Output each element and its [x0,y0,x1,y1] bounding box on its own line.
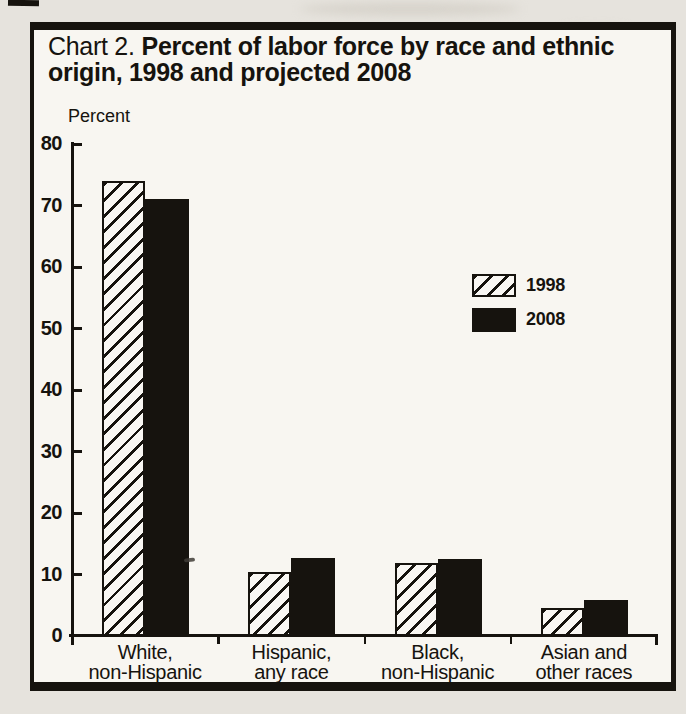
y-axis-line [71,142,74,645]
category-label: Black,non-Hispanic [353,642,523,682]
category-label: Asian andother races [499,642,669,682]
legend: 1998 2008 [472,272,565,333]
legend-label-1998: 1998 [526,275,565,296]
bar-1998-3 [541,608,584,636]
y-tick [72,389,82,392]
y-tick-label: 0 [20,624,62,647]
plot-area: White,non-HispanicHispanic,any raceBlack… [0,0,686,714]
y-tick-label: 30 [20,440,62,463]
legend-item-1998: 1998 [472,272,565,299]
category-boundary-tick [510,634,513,644]
y-tick-label: 80 [20,132,62,155]
category-label-line: Black, [353,642,523,662]
x-axis-end-tick [655,634,658,645]
category-label-line: Asian and [499,642,669,662]
bar-2008-2 [438,559,482,636]
y-tick-label: 40 [20,378,62,401]
y-tick [72,450,82,453]
category-label-line: any race [206,662,376,682]
category-label-line: Hispanic, [206,642,376,662]
y-tick [72,573,82,576]
bar-1998-1 [248,572,291,636]
bar-1998-0 [102,181,145,636]
category-label-line: other races [499,662,669,682]
scanned-page: Chart 2.Percent of labor force by race a… [0,0,686,714]
category-label-line: non-Hispanic [60,662,230,682]
category-label-line: White, [60,642,230,662]
legend-item-2008: 2008 [472,306,565,333]
category-boundary-tick [217,634,220,644]
legend-swatch-hatched-icon [472,274,516,297]
y-tick-label: 70 [20,194,62,217]
category-label-line: non-Hispanic [353,662,523,682]
bar-2008-0 [145,199,189,636]
legend-label-2008: 2008 [526,309,565,330]
y-tick [72,143,82,146]
bar-2008-1 [291,558,335,636]
legend-swatch-solid-icon [472,308,516,332]
bar-2008-3 [584,600,628,636]
bar-1998-2 [395,563,438,636]
y-tick [72,204,82,207]
category-boundary-tick [364,634,367,644]
y-tick [72,266,82,269]
category-label: White,non-Hispanic [60,642,230,682]
y-tick [72,327,82,330]
y-tick [72,512,82,515]
y-tick-label: 60 [20,255,62,278]
category-label: Hispanic,any race [206,642,376,682]
y-tick-label: 10 [20,563,62,586]
y-tick-label: 50 [20,317,62,340]
y-tick-label: 20 [20,501,62,524]
